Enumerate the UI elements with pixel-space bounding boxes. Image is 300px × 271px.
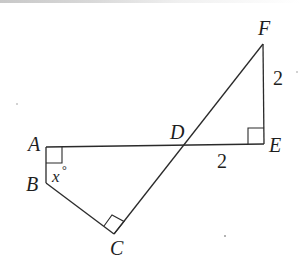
right-angle-marker-A xyxy=(46,147,62,163)
label-D: D xyxy=(169,121,185,143)
length-DE: 2 xyxy=(217,150,227,172)
scan-speck xyxy=(224,235,226,237)
geometry-diagram: A B C D E F 2 2 x ° xyxy=(0,0,300,271)
right-angle-marker-E xyxy=(248,128,264,144)
segment-AE xyxy=(46,144,264,147)
label-C: C xyxy=(110,237,124,259)
degree-symbol: ° xyxy=(62,163,67,177)
angle-label-x: x xyxy=(51,167,60,186)
scan-speck xyxy=(16,103,18,105)
segment-EF xyxy=(263,44,264,144)
scan-speck xyxy=(296,71,298,73)
label-B: B xyxy=(26,173,38,195)
segment-BC xyxy=(46,183,114,234)
label-F: F xyxy=(257,17,271,39)
right-angle-marker-C xyxy=(104,215,124,234)
segment-CF xyxy=(114,44,263,234)
label-A: A xyxy=(26,133,41,155)
length-EF: 2 xyxy=(273,67,283,89)
label-E: E xyxy=(268,134,281,156)
